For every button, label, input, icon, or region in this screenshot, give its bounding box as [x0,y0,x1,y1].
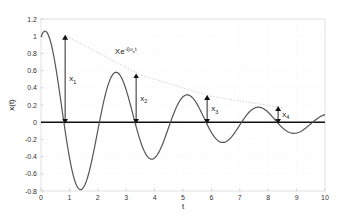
x-tick-label: 6 [209,194,213,201]
amplitude-label-x4: x4 [282,110,289,121]
envelope-label-exponent-tail: t [135,46,137,52]
x-tick-label: 1 [67,194,71,201]
y-tick-label: 0.8 [27,50,37,57]
y-tick-label: 0.6 [27,67,37,74]
x-tick-label: 10 [321,194,329,201]
y-tick-label: 0.4 [27,84,37,91]
y-tick-label: 0 [33,119,37,126]
x-tick-label: 0 [39,194,43,201]
y-tick-label: -0.2 [25,136,37,143]
y-tick-label: 0.2 [27,102,37,109]
x-tick-label: 3 [124,194,128,201]
y-tick-label: -0.8 [25,188,37,195]
amplitude-label-x2: x2 [140,94,147,105]
x-axis-label: t [182,202,185,211]
x-tick-label: 7 [238,194,242,201]
x-tick-label: 4 [153,194,157,201]
x-tick-label: 5 [181,194,185,201]
y-tick-label: -0.4 [25,153,37,160]
amplitude-label-x1: x1 [69,74,76,85]
y-tick-label: 1 [33,33,37,40]
envelope-label: Xe-ζωnt [115,46,137,56]
amplitude-label-x3: x3 [211,104,218,115]
x-axis-ticks: 012345678910 [39,189,329,202]
y-axis-label: x(t) [7,99,16,111]
x-tick-label: 8 [266,194,270,201]
envelope-curve [67,36,283,107]
damped-oscillation-chart: -0.8-0.6-0.4-0.200.20.40.60.811.2 012345… [0,0,344,221]
envelope-label-base: Xe [115,47,125,56]
y-tick-label: -0.6 [25,170,37,177]
x-tick-label: 2 [96,194,100,201]
y-tick-label: 1.2 [27,16,37,23]
x-tick-label: 9 [295,194,299,201]
amplitude-annotations: x1x2x3x4 [65,37,289,121]
